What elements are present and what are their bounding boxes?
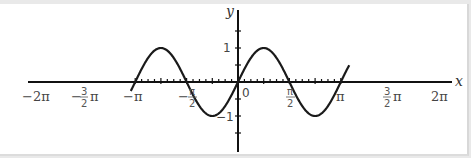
x-tick-label-neg-half-pi: − π 2	[178, 86, 197, 109]
svg-text:3: 3	[384, 86, 390, 97]
svg-text:π: π	[287, 86, 293, 97]
svg-text:2: 2	[189, 98, 195, 109]
x-tick-label-neg2pi: −2π	[22, 89, 50, 104]
x-tick-label-neg3half-pi: − 3 2 π	[71, 86, 99, 109]
x-tick-label-pi: π	[336, 89, 345, 104]
svg-text:−: −	[178, 89, 189, 104]
svg-text:π: π	[393, 89, 402, 104]
x-tick-label-2pi: 2π	[431, 89, 448, 104]
svg-text:2: 2	[384, 98, 390, 109]
y-tick-label-neg1: −1	[216, 110, 234, 124]
x-tick-label-three-half-pi: 3 2 π	[383, 86, 402, 109]
x-tick-label-negpi: −π	[123, 89, 143, 104]
y-axis-label: y	[225, 3, 235, 19]
svg-text:π: π	[189, 86, 195, 97]
svg-text:2: 2	[81, 98, 87, 109]
origin-label: 0	[242, 86, 250, 100]
x-axis-label: x	[455, 73, 463, 89]
svg-text:3: 3	[81, 86, 87, 97]
y-tick-label-1: 1	[223, 41, 231, 55]
svg-text:π: π	[90, 89, 99, 104]
sine-chart: y x 1 −1 0 −2π − 3 2 π −π − π 2 π 2 π 3 …	[0, 0, 471, 158]
svg-text:2: 2	[287, 98, 293, 109]
